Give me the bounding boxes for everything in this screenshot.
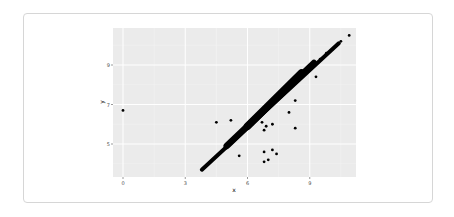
data-point bbox=[294, 99, 297, 102]
data-point bbox=[265, 125, 268, 128]
data-point bbox=[325, 52, 328, 55]
data-point bbox=[294, 127, 297, 130]
y-axis-title: y bbox=[98, 100, 106, 104]
data-point bbox=[263, 151, 266, 154]
y-axis: 579 bbox=[107, 62, 113, 147]
data-point bbox=[271, 149, 274, 152]
x-tick-label: 9 bbox=[308, 180, 311, 186]
data-point bbox=[339, 40, 342, 43]
y-tick-label: 5 bbox=[107, 141, 110, 147]
data-point bbox=[335, 44, 338, 47]
data-point bbox=[263, 129, 266, 132]
data-point bbox=[288, 111, 291, 114]
data-point bbox=[271, 123, 274, 126]
data-point bbox=[122, 109, 125, 112]
data-point bbox=[315, 75, 318, 78]
data-point bbox=[348, 34, 351, 37]
x-tick-label: 3 bbox=[184, 180, 187, 186]
y-tick-label: 7 bbox=[107, 102, 110, 108]
data-point bbox=[230, 119, 233, 122]
data-point bbox=[275, 152, 278, 155]
data-point bbox=[238, 154, 241, 157]
x-axis-title: x bbox=[232, 186, 236, 193]
data-point bbox=[263, 160, 266, 163]
data-point bbox=[331, 48, 334, 51]
x-tick-label: 6 bbox=[246, 180, 249, 186]
data-point bbox=[267, 158, 270, 161]
scatter-plot: 0369 579 x y bbox=[0, 0, 454, 217]
data-point bbox=[215, 121, 218, 124]
data-point bbox=[261, 121, 264, 124]
x-axis: 0369 bbox=[121, 177, 311, 186]
y-tick-label: 9 bbox=[107, 62, 110, 68]
data-point bbox=[319, 58, 322, 61]
plot-panel bbox=[113, 28, 356, 177]
x-tick-label: 0 bbox=[121, 180, 124, 186]
